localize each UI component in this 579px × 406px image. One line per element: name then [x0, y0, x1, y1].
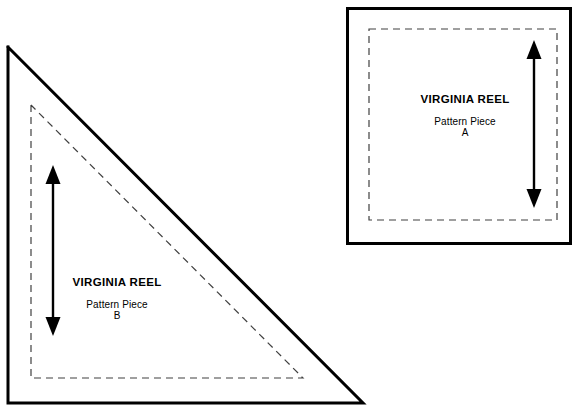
grain-arrow-head-up-b: [46, 165, 61, 184]
piece-b-subtitle: Pattern Piece: [22, 299, 212, 311]
piece-b-cut-line: [8, 47, 363, 403]
square-pattern-piece-b-group: [8, 47, 363, 403]
piece-b-seam-line: [31, 105, 303, 378]
grain-arrow-head-up-a: [527, 40, 542, 59]
piece-b-label-block: VIRGINIA REEL Pattern Piece B: [22, 276, 212, 322]
pattern-sheet: VIRGINIA REEL Pattern Piece B VIRGINIA R…: [0, 0, 579, 406]
piece-b-letter: B: [22, 310, 212, 322]
grain-arrow-head-down-a: [527, 189, 542, 208]
pattern-drawing-layer: [0, 0, 579, 406]
piece-a-label-block: VIRGINIA REEL Pattern Piece A: [385, 93, 545, 139]
piece-a-title: VIRGINIA REEL: [385, 93, 545, 107]
piece-a-subtitle: Pattern Piece: [385, 116, 545, 128]
piece-b-title: VIRGINIA REEL: [22, 276, 212, 290]
piece-a-letter: A: [385, 127, 545, 139]
